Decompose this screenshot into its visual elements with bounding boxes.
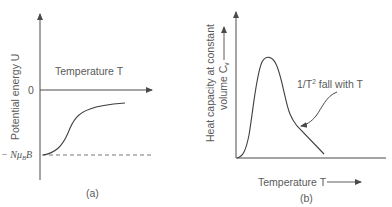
panel-b: 1/T2 fall with T Heat capacity at consta… [204, 12, 386, 204]
panel-a-energy-curve [43, 103, 125, 155]
panel-a-asymptote-label: − NμBB [1, 149, 32, 161]
panel-b-heat-capacity-curve [237, 57, 324, 158]
panel-b-y-axis-label-line2: volume Cv [217, 62, 230, 110]
panel-a-y-axis-label: Potential energy U [9, 54, 21, 140]
panel-a: 0 Temperature T Potential energy U − NμB… [1, 14, 152, 199]
panel-a-zero-label: 0 [28, 84, 34, 96]
panel-a-x-axis-label: Temperature T [55, 65, 124, 77]
panel-b-x-axis-label: Temperature T [258, 176, 327, 188]
panel-b-annotation: 1/T2 fall with T [297, 78, 363, 90]
panel-b-annotation-arrow [301, 92, 337, 126]
panel-b-caption: (b) [300, 192, 313, 204]
figure: 0 Temperature T Potential energy U − NμB… [0, 0, 392, 207]
panel-b-y-axis-label-line1: Heat capacity at constant [204, 24, 216, 142]
panel-a-caption: (a) [86, 187, 99, 199]
